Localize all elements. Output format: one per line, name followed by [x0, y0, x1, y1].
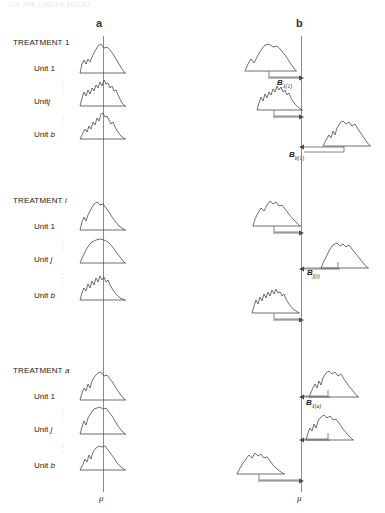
distribution-curve-a-i-1	[79, 200, 127, 231]
treatment-label-1-prefix: TREATMENT	[13, 38, 63, 47]
panel-label-a: a	[96, 17, 102, 29]
distribution-curve-b-1	[244, 42, 298, 72]
unit-label-a-1-index: 1	[50, 392, 54, 401]
unit-label-i-j: Unit j	[34, 255, 52, 264]
unit-label-a-j: Unit j	[34, 425, 52, 434]
effect-arrow-b-6	[273, 316, 305, 324]
panel-b-mu-label: μ	[297, 493, 302, 503]
treatment-label-a-prefix: TREATMENT	[13, 366, 63, 375]
distribution-curve-a-a-b	[79, 443, 127, 471]
unit-label-1-j-prefix: Unit	[34, 97, 48, 106]
treatment-label-1-index: 1	[65, 38, 70, 47]
figure-nested-linear-model: 108 THE LINEAR MODEL a b μ μ TREATMENT 1…	[0, 0, 385, 513]
effect-arrow-b-3	[299, 143, 345, 151]
distribution-curve-a-i-j	[79, 236, 127, 264]
unit-label-a-j-index: j	[50, 425, 52, 434]
unit-label-i-j-index: j	[50, 255, 52, 264]
unit-label-a-b-index: b	[50, 461, 54, 470]
unit-label-a-j-prefix: Unit	[34, 425, 48, 434]
distribution-curve-a-1-b	[79, 110, 127, 140]
distribution-curve-a-1-j	[79, 77, 127, 107]
treatment-label-i-prefix: TREATMENT	[13, 196, 63, 205]
effect-label-B-1-a: B1(a)	[306, 398, 321, 409]
unit-label-i-b-prefix: Unit	[34, 291, 48, 300]
unit-label-i-1-index: 1	[50, 222, 54, 231]
effect-label-B-1-a-sub-treatment: (a)	[315, 403, 322, 409]
distribution-curve-b-6	[251, 285, 301, 314]
treatment-label-i-index: i	[65, 196, 67, 205]
vertical-dots-a-b: ...	[60, 441, 66, 451]
unit-label-i-b-index: b	[50, 291, 54, 300]
vertical-dots-i-a: ...	[60, 238, 66, 248]
panel-label-b: b	[296, 17, 303, 29]
vertical-dots-a-a: ...	[60, 408, 66, 418]
unit-label-i-j-prefix: Unit	[34, 255, 48, 264]
effect-label-B-j-i-sub-treatment: (i)	[314, 273, 319, 279]
unit-label-a-b: Unit b	[34, 461, 55, 470]
effect-arrow-b-4	[273, 229, 305, 237]
distribution-curve-a-a-1	[79, 370, 127, 401]
effect-arrow-b-5	[299, 265, 341, 273]
unit-label-i-1-prefix: Unit	[34, 222, 48, 231]
unit-label-1-b: Unit b	[34, 130, 55, 139]
effect-arrow-b-8	[299, 436, 331, 444]
effect-label-B-j-i: Bj(i)	[307, 268, 320, 279]
treatment-label-1: TREATMENT 1	[13, 38, 69, 47]
unit-label-1-1-prefix: Unit	[34, 64, 48, 73]
distribution-curve-b-2	[256, 83, 304, 111]
unit-label-1-1-index: 1	[50, 64, 54, 73]
distribution-curve-a-i-b	[79, 272, 127, 301]
effect-arrow-b-9	[258, 477, 305, 485]
unit-label-1-b-prefix: Unit	[34, 130, 48, 139]
unit-label-i-b: Unit b	[34, 291, 55, 300]
effect-label-B-b-1: Bb(1)	[289, 150, 304, 161]
treatment-label-i: TREATMENT i	[13, 196, 67, 205]
unit-label-1-j: Unitj	[34, 97, 50, 106]
unit-label-a-1-prefix: Unit	[34, 392, 48, 401]
distribution-curve-a-a-j	[79, 405, 127, 435]
unit-label-1-j-index: j	[48, 97, 50, 106]
vertical-dots-1-b: ...	[60, 113, 66, 123]
effect-arrow-b-2	[273, 113, 305, 121]
unit-label-a-1: Unit 1	[34, 392, 55, 401]
unit-label-a-b-prefix: Unit	[34, 461, 48, 470]
treatment-label-a-index: a	[65, 366, 70, 375]
unit-label-1-b-index: b	[50, 130, 54, 139]
distribution-curve-b-4	[252, 198, 302, 227]
vertical-dots-1-a: ...	[60, 80, 66, 90]
distribution-curve-a-1-1	[79, 42, 127, 74]
vertical-dots-i-b: ...	[60, 271, 66, 281]
running-header: 108 THE LINEAR MODEL	[8, 1, 92, 8]
unit-label-1-1: Unit 1	[34, 64, 55, 73]
effect-label-B-b-1-sub-treatment: (1)	[298, 155, 305, 161]
treatment-label-a: TREATMENT a	[13, 366, 69, 375]
panel-a-mu-label: μ	[99, 493, 104, 503]
unit-label-i-1: Unit 1	[34, 222, 55, 231]
distribution-curve-b-9	[236, 448, 286, 475]
